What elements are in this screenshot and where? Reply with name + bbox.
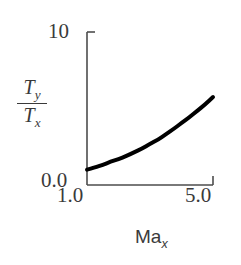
y-axis-title-numerator-subscript: y — [35, 87, 41, 102]
x-axis-left-tick-label: 1.0 — [57, 185, 83, 206]
y-axis-title-denominator-base: T — [24, 104, 35, 126]
y-axis-title-denominator: Tx — [21, 104, 44, 131]
x-axis-title: Max — [135, 227, 168, 250]
x-axis-right-tick-label: 5.0 — [185, 185, 211, 206]
data-curve — [87, 97, 213, 170]
y-axis-title: Ty Tx — [17, 76, 47, 131]
x-axis-title-base: Ma — [135, 226, 161, 247]
y-axis-top-tick-label: 10 — [48, 21, 69, 42]
y-axis-title-denominator-subscript: x — [35, 115, 41, 130]
y-axis-title-numerator: Ty — [21, 76, 44, 103]
x-axis-title-subscript: x — [161, 237, 167, 251]
y-axis-title-numerator-base: T — [24, 76, 35, 98]
plot-canvas — [0, 0, 241, 265]
chart-figure: 10 0.0 1.0 5.0 Ty Tx Max — [0, 0, 241, 265]
